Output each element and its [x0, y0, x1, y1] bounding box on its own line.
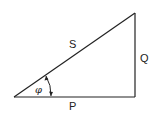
- label-p: P: [69, 100, 76, 112]
- power-triangle-diagram: S Q P φ: [0, 0, 157, 113]
- label-s: S: [69, 38, 76, 50]
- side-hypotenuse-s: [14, 13, 135, 97]
- angle-arc: [45, 76, 54, 96]
- label-q: Q: [140, 52, 149, 64]
- label-angle-phi: φ: [35, 84, 42, 95]
- arrowhead-down-icon: [49, 92, 53, 97]
- triangle: [14, 13, 135, 97]
